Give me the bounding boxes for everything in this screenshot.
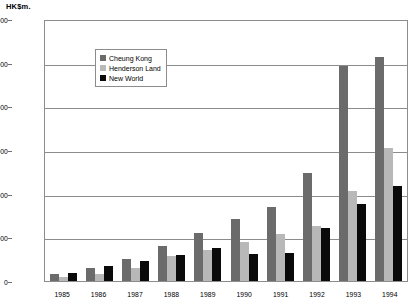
y-axis-tick-label: 6,000 xyxy=(0,148,8,155)
x-axis-tick-label: 1990 xyxy=(226,283,262,307)
legend-swatch-icon xyxy=(100,75,106,81)
x-axis-tick-label: 1993 xyxy=(335,283,371,307)
bar xyxy=(357,204,366,282)
bar-group xyxy=(262,21,298,281)
bar xyxy=(348,191,357,281)
x-axis-tick-label: 1989 xyxy=(190,283,226,307)
bar xyxy=(176,255,185,281)
y-axis-tick-mark xyxy=(8,64,12,65)
y-axis-tick-label: 12,000 xyxy=(0,17,8,24)
bar xyxy=(86,268,95,281)
x-axis-tick-label: 1986 xyxy=(80,283,116,307)
y-axis-tick-label: 0 xyxy=(0,279,8,286)
bar xyxy=(203,250,212,281)
bar xyxy=(285,253,294,281)
legend-label: Cheung Kong xyxy=(109,55,152,62)
bar-group xyxy=(45,21,81,281)
bar xyxy=(339,66,348,281)
bar-group xyxy=(335,21,371,281)
legend-item: Henderson Land xyxy=(100,63,161,73)
bar xyxy=(104,266,113,281)
bar xyxy=(59,277,68,281)
bar xyxy=(167,256,176,281)
bar xyxy=(276,234,285,281)
bar xyxy=(249,254,258,281)
legend-swatch-icon xyxy=(100,55,106,61)
x-axis-tick-label: 1992 xyxy=(299,283,335,307)
x-axis-tick-label: 1988 xyxy=(153,283,189,307)
bar xyxy=(95,274,104,281)
bar-group xyxy=(298,21,334,281)
legend-label: New World xyxy=(109,75,143,82)
y-axis-tick-label: 2,000 xyxy=(0,235,8,242)
y-axis: 12,00010,0008,0006,0004,0002,0000 xyxy=(0,0,44,307)
bar-group xyxy=(371,21,407,281)
bar xyxy=(384,148,393,281)
bar-group xyxy=(226,21,262,281)
x-axis-tick-label: 1991 xyxy=(262,283,298,307)
x-axis-tick-label: 1994 xyxy=(372,283,408,307)
y-axis-tick-mark xyxy=(8,107,12,108)
bar xyxy=(321,228,330,281)
y-axis-tick-mark xyxy=(8,195,12,196)
bar xyxy=(158,246,167,281)
legend-label: Henderson Land xyxy=(109,65,161,72)
bar xyxy=(50,274,59,281)
bar xyxy=(212,248,221,281)
bar xyxy=(312,226,321,281)
bar xyxy=(240,242,249,281)
bar xyxy=(303,173,312,281)
bar xyxy=(231,219,240,281)
y-axis-tick-mark xyxy=(8,151,12,152)
y-axis-tick-label: 10,000 xyxy=(0,60,8,67)
bar xyxy=(194,233,203,281)
bar xyxy=(131,268,140,281)
legend-item: Cheung Kong xyxy=(100,53,161,63)
y-axis-tick-mark xyxy=(8,238,12,239)
y-axis-tick-mark xyxy=(8,20,12,21)
bar xyxy=(375,57,384,281)
y-axis-tick-label: 8,000 xyxy=(0,104,8,111)
x-axis-tick-label: 1985 xyxy=(44,283,80,307)
bar xyxy=(68,273,77,281)
bar xyxy=(393,186,402,281)
y-axis-tick-label: 4,000 xyxy=(0,191,8,198)
legend-item: New World xyxy=(100,73,161,83)
y-axis-tick-mark xyxy=(8,282,12,283)
bar-chart: HK$m. 12,00010,0008,0006,0004,0002,0000 … xyxy=(0,0,420,307)
x-axis-tick-label: 1987 xyxy=(117,283,153,307)
x-axis: 1985198619871988198919901991199219931994 xyxy=(44,283,408,307)
legend-swatch-icon xyxy=(100,65,106,71)
chart-legend: Cheung KongHenderson LandNew World xyxy=(95,49,167,87)
bar xyxy=(122,259,131,281)
bar xyxy=(267,207,276,281)
bar-group xyxy=(190,21,226,281)
bar xyxy=(140,261,149,281)
